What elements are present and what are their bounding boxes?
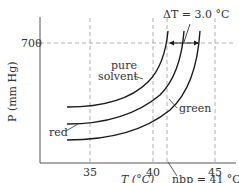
delta-t-label: ΔT = 3.0 °C [163, 8, 229, 21]
curves [67, 31, 200, 140]
nbp-label: nbp = 41 °C [172, 173, 239, 183]
delta-t-leader [184, 24, 190, 42]
tick-label-700: 700 [21, 37, 42, 50]
boiling-point-elevation-chart: 700 35 40 45 T (°C) nbp = 41 °C P (mm Hg… [0, 0, 239, 183]
y-axis-label: P (mm Hg) [6, 62, 19, 122]
tick-label-35: 35 [83, 166, 97, 179]
axes [37, 17, 236, 163]
leaders [66, 76, 177, 176]
pure-solvent-label-line2: solvent [98, 70, 139, 83]
x-axis-label: T (°C) [121, 173, 154, 183]
red-label: red [49, 126, 68, 139]
green-label: green [179, 102, 211, 115]
